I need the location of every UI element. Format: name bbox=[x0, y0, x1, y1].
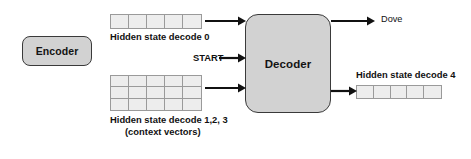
grid-cell bbox=[424, 86, 441, 98]
grid-cell bbox=[165, 99, 183, 110]
context-vectors-label-line1: Hidden state decode 1,2, 3 bbox=[110, 115, 228, 126]
arrow-hidden-state-0-to-decoder bbox=[205, 16, 246, 26]
hidden-state-4-grid bbox=[356, 85, 442, 99]
grid-cell bbox=[147, 15, 165, 28]
grid-cell bbox=[129, 99, 147, 110]
diagram-canvas: Encoder Decoder Hidden state decode 0 Hi… bbox=[0, 0, 471, 159]
encoder-label: Encoder bbox=[36, 45, 79, 57]
encoder-node: Encoder bbox=[22, 36, 92, 66]
context-vectors-grid bbox=[110, 75, 202, 111]
arrow-decoder-to-hidden-state-4 bbox=[331, 86, 357, 96]
grid-cell bbox=[183, 99, 201, 110]
grid-cell bbox=[111, 76, 129, 87]
grid-cell bbox=[183, 87, 201, 98]
grid-cell bbox=[407, 86, 424, 98]
decoder-label: Decoder bbox=[265, 58, 312, 70]
arrow-context-vectors-to-decoder bbox=[205, 83, 246, 93]
grid-cell bbox=[165, 15, 183, 28]
arrow-start-to-decoder bbox=[219, 53, 246, 63]
grid-cell bbox=[147, 87, 165, 98]
grid-cell bbox=[165, 76, 183, 87]
hidden-state-0-grid bbox=[110, 14, 202, 29]
output-word-label: Dove bbox=[381, 14, 402, 24]
hidden-state-0-label: Hidden state decode 0 bbox=[110, 32, 210, 43]
grid-cell bbox=[374, 86, 391, 98]
grid-cell bbox=[183, 15, 201, 28]
grid-cell bbox=[111, 15, 129, 28]
grid-cell bbox=[111, 99, 129, 110]
context-vectors-label-line2: (context vectors) bbox=[125, 127, 201, 138]
grid-cell bbox=[129, 15, 147, 28]
grid-cell bbox=[391, 86, 408, 98]
grid-cell bbox=[129, 76, 147, 87]
arrow-decoder-to-output-word bbox=[331, 16, 375, 26]
grid-cell bbox=[147, 76, 165, 87]
grid-cell bbox=[129, 87, 147, 98]
grid-cell bbox=[357, 86, 374, 98]
grid-cell bbox=[183, 76, 201, 87]
grid-cell bbox=[147, 99, 165, 110]
grid-cell bbox=[165, 87, 183, 98]
grid-cell bbox=[111, 87, 129, 98]
decoder-node: Decoder bbox=[245, 14, 331, 113]
hidden-state-4-label: Hidden state decode 4 bbox=[356, 70, 456, 81]
